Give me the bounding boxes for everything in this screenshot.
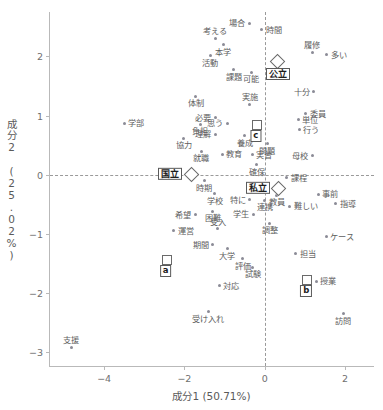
group-label-私立: 私立 bbox=[246, 182, 270, 194]
data-point-label: 大学 bbox=[219, 252, 235, 260]
data-point bbox=[211, 243, 214, 246]
x-tick-mark bbox=[265, 366, 266, 370]
data-point-label: 考える bbox=[203, 27, 227, 35]
y-tick-label: 0 bbox=[37, 169, 43, 180]
cluster-marker-square[interactable] bbox=[252, 120, 262, 130]
y-tick-label: −2 bbox=[29, 288, 43, 299]
data-point bbox=[251, 153, 254, 156]
data-point-label: 事前 bbox=[322, 190, 338, 198]
data-point bbox=[248, 22, 251, 25]
data-point bbox=[288, 205, 291, 208]
cluster-label-a: a bbox=[160, 265, 172, 277]
data-point bbox=[325, 53, 328, 56]
data-point bbox=[312, 90, 315, 93]
data-point-label: 可能 bbox=[243, 75, 259, 83]
group-label-公立: 公立 bbox=[266, 68, 290, 80]
data-point bbox=[285, 176, 288, 179]
x-tick-mark bbox=[345, 366, 346, 370]
data-point bbox=[248, 103, 251, 106]
data-point bbox=[172, 229, 175, 232]
data-point-label: ケース bbox=[330, 233, 354, 241]
data-point-label: 思う bbox=[207, 119, 223, 127]
data-point-label: 試験 bbox=[245, 270, 261, 278]
data-point-label: 実習 bbox=[256, 150, 272, 158]
pca-biplot: 成分2 (25.02%) 210−1−2−3−4−202 場合時間考える本学履修… bbox=[0, 0, 383, 410]
data-point-label: 課題 bbox=[226, 73, 242, 81]
y-tick-label: −3 bbox=[29, 347, 43, 358]
data-point bbox=[315, 280, 318, 283]
x-tick-mark bbox=[184, 366, 185, 370]
data-point bbox=[317, 193, 320, 196]
data-point bbox=[294, 252, 297, 255]
data-point-label: 受け入れ bbox=[192, 315, 224, 323]
data-point-label: 活動 bbox=[202, 59, 218, 67]
cluster-label-b: b bbox=[300, 285, 312, 297]
y-tick-mark bbox=[46, 293, 50, 294]
cluster-label-c: c bbox=[250, 130, 261, 142]
data-point-label: 確保 bbox=[249, 168, 265, 176]
cluster-marker-square[interactable] bbox=[162, 255, 172, 265]
x-tick-label: 0 bbox=[262, 373, 268, 384]
data-point-label: 指導 bbox=[340, 200, 356, 208]
data-point bbox=[334, 202, 337, 205]
x-tick-label: −4 bbox=[97, 373, 111, 384]
data-point-label: 期間 bbox=[193, 240, 209, 248]
zero-line-horizontal bbox=[50, 175, 374, 176]
data-point-label: 場合 bbox=[229, 19, 245, 27]
y-axis-title: 成分2 (25.02%) bbox=[2, 12, 22, 367]
x-tick-label: 2 bbox=[342, 373, 348, 384]
group-marker-diamond[interactable] bbox=[271, 181, 287, 197]
data-point-label: 行う bbox=[303, 126, 319, 134]
data-point-label: 就職 bbox=[193, 154, 209, 162]
data-point-label: 体制 bbox=[188, 99, 204, 107]
data-point-label: 学部 bbox=[128, 119, 144, 127]
data-point bbox=[297, 118, 300, 121]
data-point-label: 希望 bbox=[175, 211, 191, 219]
data-point bbox=[123, 122, 126, 125]
group-label-国立: 国立 bbox=[158, 167, 182, 179]
data-point-label: 受入 bbox=[210, 217, 226, 225]
data-point bbox=[218, 284, 221, 287]
data-point bbox=[248, 198, 251, 201]
y-tick-mark bbox=[46, 234, 50, 235]
data-point-label: 学生 bbox=[233, 210, 249, 218]
data-point bbox=[325, 235, 328, 238]
data-point bbox=[221, 153, 224, 156]
data-point-label: 学校 bbox=[207, 197, 223, 205]
data-point bbox=[214, 133, 217, 136]
x-tick-label: −2 bbox=[177, 373, 191, 384]
data-point-label: 多い bbox=[331, 50, 347, 58]
y-tick-mark bbox=[46, 116, 50, 117]
data-point-label: 調整 bbox=[262, 226, 278, 234]
data-point bbox=[216, 227, 219, 230]
data-point-label: 十分 bbox=[294, 88, 310, 96]
data-point-label: 難しい bbox=[294, 202, 318, 210]
data-point-label: 授業 bbox=[320, 277, 336, 285]
data-point-label: 支援 bbox=[63, 336, 79, 344]
data-point-label: 実施 bbox=[242, 93, 258, 101]
data-point-label: 単位 bbox=[302, 116, 318, 124]
data-point-label: 時期 bbox=[196, 184, 212, 192]
data-point-label: 教育 bbox=[226, 150, 242, 158]
data-point-label: 特に bbox=[230, 195, 246, 203]
data-point-label: 担当 bbox=[300, 250, 316, 258]
data-point-label: 協力 bbox=[176, 141, 192, 149]
data-point-label: 運営 bbox=[178, 227, 194, 235]
y-tick-mark bbox=[46, 175, 50, 176]
group-marker-diamond[interactable] bbox=[184, 167, 200, 183]
data-point bbox=[311, 154, 314, 157]
data-point bbox=[311, 51, 314, 54]
y-tick-label: 1 bbox=[37, 110, 43, 121]
data-point-label: 課程 bbox=[291, 174, 307, 182]
data-point-label: 時間 bbox=[266, 26, 282, 34]
data-point-label: 連携 bbox=[257, 203, 273, 211]
data-point-label: 理解 bbox=[195, 130, 211, 138]
data-point bbox=[252, 213, 255, 216]
y-tick-mark bbox=[46, 352, 50, 353]
y-tick-label: −1 bbox=[29, 228, 43, 239]
data-point bbox=[194, 213, 197, 216]
cluster-marker-square[interactable] bbox=[302, 275, 312, 285]
data-point bbox=[260, 28, 263, 31]
y-tick-label: 2 bbox=[37, 51, 43, 62]
plot-area: 210−1−2−3−4−202 場合時間考える本学履修多い活動課題可能十分体制実… bbox=[49, 12, 374, 367]
